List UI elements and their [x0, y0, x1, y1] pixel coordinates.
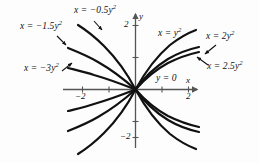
annotation-y-equals-zero: y = 0 — [156, 74, 177, 84]
curve-label-pos-1: x = y2 — [158, 29, 182, 39]
leader-neg-1p5 — [57, 36, 66, 45]
leader-neg-3 — [62, 63, 72, 71]
x-axis-label: x — [186, 76, 190, 85]
curve-label-neg-1p5: x = −1.5y2 — [20, 22, 62, 32]
x-tick-label-2: 2 — [186, 92, 191, 101]
curve-label-neg-3: x = −3y2 — [24, 64, 59, 74]
leader-neg-0p5 — [94, 21, 102, 30]
curve-label-neg-0p5: x = −0.5y2 — [74, 6, 116, 16]
curve-label-pos-2: x = 2y2 — [206, 32, 234, 42]
y-tick-label-neg2: −2 — [120, 132, 131, 141]
y-tick-label-2: 2 — [124, 20, 129, 29]
curve-label-pos-2p5: x = 2.5y2 — [207, 62, 243, 72]
y-axis-label: y — [139, 12, 143, 21]
leader-pos-2 — [205, 45, 216, 54]
parabola-family-figure: x = −0.5y2 x = −1.5y2 x = −3y2 x = y2 x … — [0, 0, 259, 163]
x-tick-label-neg2: −2 — [75, 92, 86, 101]
curve-neg-1p5 — [68, 48, 136, 90]
leader-lines — [57, 21, 216, 71]
